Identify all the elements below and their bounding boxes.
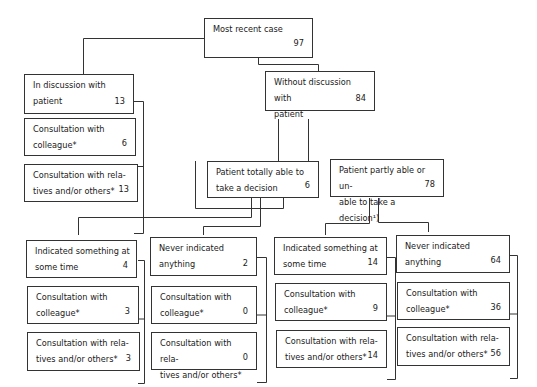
node-count: 84 [356,90,366,106]
node-count: 2 [243,255,248,271]
node-unable-indicated-relatives: Consultation with rela- tives and/or oth… [276,330,387,368]
node-label: Patient partly able or un- able to take … [339,162,437,226]
node-count: 78 [425,176,435,192]
node-label: Consultation with rela- tives and/or oth… [285,333,380,365]
node-label: Consultation with colleague* [33,121,129,153]
node-label: Consultation with rela- tives and/or oth… [160,335,250,383]
node-count: 13 [115,93,125,109]
node-label: Consultation with colleague* [406,285,503,317]
node-able-never-colleague: Consultation with colleague* 0 [151,286,257,324]
node-count: 14 [368,254,378,270]
node-in-discussion: In discussion with patient 13 [24,74,134,114]
node-able-indicated-colleague: Consultation with colleague* 3 [27,286,139,324]
node-count: 0 [243,303,248,319]
node-unable-indicated: Indicated something at some time 14 [274,237,387,275]
node-most-recent-case: Most recent case 97 [204,18,313,58]
node-without-discussion: Without discussion with patient 84 [265,71,375,111]
node-count: 3 [125,303,130,319]
node-count: 36 [491,299,501,315]
node-count: 14 [368,347,378,363]
node-label: Patient totally able to take a decision [216,164,312,196]
node-label: Most recent case [213,21,306,37]
node-able-never: Never indicated anything 2 [150,237,257,276]
node-count: 56 [491,345,501,361]
node-unable-never-relatives: Consultation with rela- tives and/or oth… [397,327,510,366]
node-count: 13 [119,181,129,197]
node-in-discussion-colleague: Consultation with colleague* 6 [24,118,136,156]
node-label: Never indicated anything [405,238,503,270]
node-count: 3 [126,350,131,366]
node-in-discussion-relatives: Consultation with rela- tives and/or oth… [24,164,138,202]
node-label: Never indicated anything [159,240,250,272]
node-count: 4 [123,257,128,273]
node-label: Indicated something at some time [283,240,380,272]
node-count: 97 [294,35,304,51]
node-label: Consultation with colleague* [160,289,250,321]
node-unable-never-colleague: Consultation with colleague* 36 [397,282,510,320]
node-unable-never: Never indicated anything 64 [396,235,510,273]
node-able-indicated-relatives: Consultation with rela- tives and/or oth… [27,332,140,371]
node-label: Consultation with rela- tives and/or oth… [36,335,133,367]
node-label: Consultation with colleague* [284,286,380,318]
node-count: 6 [122,135,127,151]
node-count: 6 [305,177,310,193]
node-label: Consultation with rela- tives and/or oth… [33,167,131,199]
node-count: 0 [243,349,248,365]
node-count: 9 [373,300,378,316]
node-patient-unable: Patient partly able or un- able to take … [330,159,444,197]
node-label: Consultation with colleague* [36,289,132,321]
node-count: 64 [491,252,501,268]
node-label: Without discussion with patient [274,74,368,122]
node-able-never-relatives: Consultation with rela- tives and/or oth… [151,332,257,370]
node-label: In discussion with patient [33,77,127,109]
node-label: Indicated something at some time [35,243,130,275]
node-unable-indicated-colleague: Consultation with colleague* 9 [275,283,387,321]
node-patient-able: Patient totally able to take a decision … [207,161,319,198]
node-able-indicated: Indicated something at some time 4 [26,240,137,278]
node-label: Consultation with rela- tives and/or oth… [406,330,503,362]
